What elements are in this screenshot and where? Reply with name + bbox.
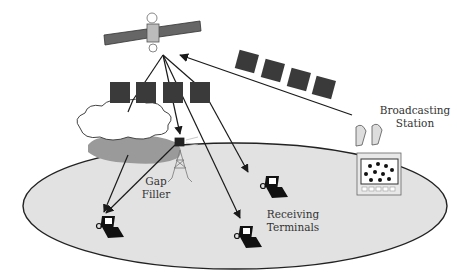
- label-line: Terminals: [258, 221, 328, 234]
- label-line: Broadcasting: [374, 104, 456, 117]
- label-line: Receiving: [258, 208, 328, 221]
- label-line: Gap: [136, 175, 176, 188]
- gap-filler-label: Gap Filler: [136, 175, 176, 201]
- satellite-broadcast-diagram: [0, 0, 457, 279]
- broadcasting-station-label: Broadcasting Station: [374, 104, 456, 130]
- satellite-icon: [104, 13, 201, 52]
- downlink-data-packets: [110, 82, 210, 103]
- label-line: Filler: [136, 188, 176, 201]
- label-line: Station: [374, 117, 456, 130]
- broadcast-station-icon: [356, 124, 401, 195]
- receiving-terminals-label: Receiving Terminals: [258, 208, 328, 234]
